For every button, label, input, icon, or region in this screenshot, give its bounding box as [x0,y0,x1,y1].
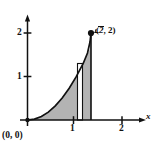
x-axis-label: x [146,112,151,121]
y-axis-arrowhead [25,15,30,22]
figure-container: 2 1 1 2 (0, 0) x (2, 2) [0,0,157,155]
endpoint-label-radical-two: 2 [99,26,104,35]
plot-canvas [0,0,157,155]
y-axis-tick-label-1: 1 [17,72,22,82]
origin-dot [25,118,29,122]
origin-label: (0, 0) [2,131,23,141]
x-axis-tick-label-2: 2 [119,124,124,134]
x-axis-arrowhead [139,117,146,122]
endpoint-coordinate-label: (2, 2) [96,26,116,35]
x-axis-tick-label-1: 1 [70,124,75,134]
y-axis-tick-label-2: 2 [17,28,22,38]
endpoint-label-close-paren: ) [113,25,116,35]
